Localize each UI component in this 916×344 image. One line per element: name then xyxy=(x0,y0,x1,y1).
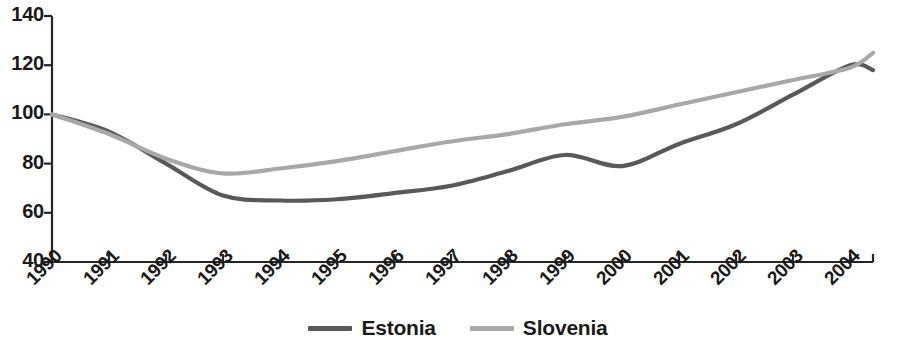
y-axis-tick-label: 140 xyxy=(0,3,44,26)
y-axis-tick-label: 80 xyxy=(0,151,44,174)
legend-entry-slovenia[interactable]: Slovenia xyxy=(470,316,608,340)
legend-label: Slovenia xyxy=(523,316,608,340)
chart-legend: EstoniaSlovenia xyxy=(0,316,916,340)
legend-label: Estonia xyxy=(361,316,435,340)
series-line-estonia xyxy=(52,64,873,201)
chart-plot-area xyxy=(0,0,916,344)
y-axis-tick-label: 60 xyxy=(0,200,44,223)
series-line-slovenia xyxy=(52,53,873,174)
line-chart: 140120100806040 199019911992199319941995… xyxy=(0,0,916,344)
chart-series-lines xyxy=(52,53,873,201)
legend-swatch-icon xyxy=(308,326,352,331)
y-axis-tick-label: 120 xyxy=(0,52,44,75)
y-axis-tick-label: 100 xyxy=(0,101,44,124)
legend-entry-estonia[interactable]: Estonia xyxy=(308,316,435,340)
legend-swatch-icon xyxy=(470,326,514,331)
